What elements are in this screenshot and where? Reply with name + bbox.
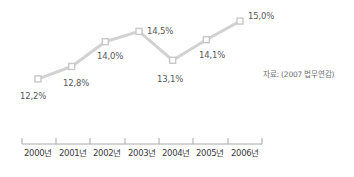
data-point-2002년 [102, 39, 108, 45]
value-label-2004: 13,1% [157, 75, 183, 84]
source-note: 자료: (2007 법무연감) [263, 71, 334, 79]
value-label-2005: 14,1% [199, 51, 225, 60]
value-label-2002: 14,0% [97, 52, 123, 61]
data-point-2004년 [170, 57, 176, 63]
line-chart: 12,2% 12,8% 14,0% 14,5% 13,1% 14,1% 15,0… [0, 0, 354, 177]
value-label-2003: 14,5% [147, 27, 173, 36]
data-point-2005년 [203, 37, 209, 43]
data-point-2001년 [69, 64, 75, 70]
data-point-2003년 [136, 28, 142, 34]
x-axis [22, 138, 262, 144]
x-tick-label-2006: 2006년 [221, 149, 269, 158]
data-point-2000년 [35, 76, 41, 82]
value-label-2000: 12,2% [20, 92, 46, 101]
data-point-2006년 [237, 18, 243, 24]
value-label-2001: 12,8% [63, 79, 89, 88]
value-label-2006: 15,0% [248, 12, 274, 21]
